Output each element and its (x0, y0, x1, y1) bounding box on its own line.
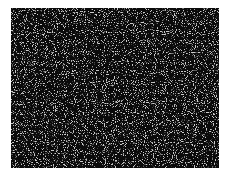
noise-image (11, 8, 219, 168)
noise-pattern (11, 8, 219, 168)
